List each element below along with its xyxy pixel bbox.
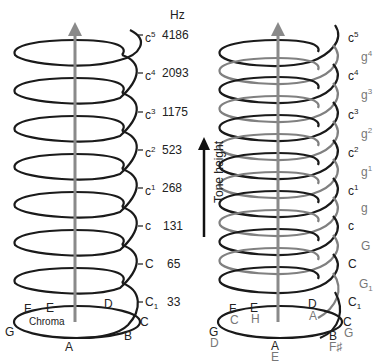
note-label: G [361,240,370,252]
pitch-helix-figure [0,0,378,364]
note-label: c [145,220,151,232]
chroma-note-D-gray: D [210,337,219,349]
note-label: c4 [145,67,155,82]
frequency-value: 1175 [162,106,188,118]
note-label: c3 [348,106,358,121]
chroma-note-A-gray: A [309,310,317,322]
frequency-value: 4186 [162,29,189,41]
tone-height-arrow [198,137,210,237]
note-label: g4 [361,48,372,63]
note-label: c3 [145,106,155,121]
tone-height-label: Tone height [212,141,226,203]
note-label: g2 [361,125,372,140]
note-label: C1 [145,296,158,313]
note-label: C1 [348,296,361,313]
note-label: c5 [145,29,155,44]
left-pitch-axis-arrow [68,22,82,322]
chroma-note-Fsharp-gray: F♯ [329,341,342,353]
chroma-note-E-gray: E [271,351,279,363]
chroma-note-F: F [24,303,31,315]
frequency-value: 65 [167,258,180,270]
chroma-note-E: E [46,302,54,314]
note-label: g3 [361,86,372,101]
left-helix [14,30,141,338]
chroma-label: Chroma [29,316,65,328]
note-label: c4 [348,67,358,82]
note-label: C [348,258,357,270]
note-label: c5 [348,29,358,44]
chroma-note-A: A [65,341,73,353]
chroma-note-G: G [5,326,14,338]
note-label: C [145,258,154,270]
chroma-note-C: C [140,316,149,328]
hz-header: Hz [170,9,185,21]
frequency-value: 268 [162,182,182,194]
note-label: c1 [145,182,155,197]
note-label: c2 [348,144,358,159]
note-label: c1 [348,182,358,197]
note-label: c [348,220,354,232]
chroma-note-B: B [124,330,132,342]
frequency-value: 33 [167,296,180,308]
frequency-value: 2093 [162,67,189,79]
right-helix [218,25,342,338]
note-label: G1 [359,278,373,295]
note-label: c2 [145,144,155,159]
chroma-note-D: D [104,298,113,310]
chroma-note-G-gray: G [344,327,353,339]
note-label: g1 [361,163,372,178]
chroma-note-H-gray: H [251,313,260,325]
chroma-note-C-gray: C [230,314,239,326]
frequency-value: 131 [163,220,183,232]
note-label: g [361,202,368,214]
frequency-value: 523 [162,144,182,156]
